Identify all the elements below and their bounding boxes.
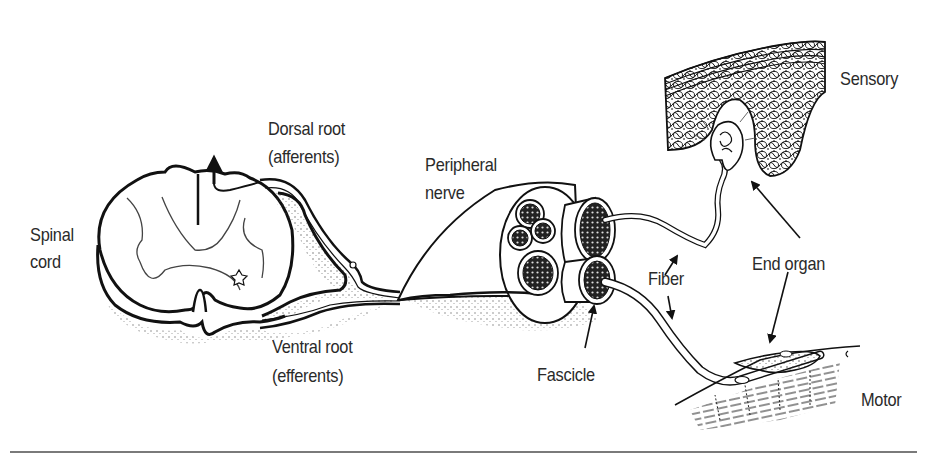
end-organ-arrow-sensory-icon xyxy=(752,182,800,238)
sensory-skin xyxy=(665,41,825,176)
label-spinal-cord-line2: cord xyxy=(30,250,61,274)
label-peripheral-nerve-line2: nerve xyxy=(425,181,465,205)
label-ventral-root-line2: (efferents) xyxy=(272,364,343,388)
label-spinal-cord-line1: Spinal xyxy=(30,223,74,247)
label-fascicle: Fascicle xyxy=(537,363,595,387)
nerve-diagram xyxy=(0,0,939,457)
label-dorsal-root-line2: (afferents) xyxy=(268,145,339,169)
fiber-arrow-motor-icon xyxy=(668,296,672,318)
label-end-organ: End organ xyxy=(752,252,825,276)
bottom-divider xyxy=(10,451,917,453)
label-dorsal-root-line1: Dorsal root xyxy=(268,117,345,141)
end-organ-arrow-motor-icon xyxy=(770,272,788,342)
label-ventral-root-line1: Ventral root xyxy=(272,335,352,359)
spinal-cord xyxy=(98,158,390,344)
label-peripheral-nerve-line1: Peripheral xyxy=(425,153,497,177)
label-motor: Motor xyxy=(861,388,901,412)
sensory-fiber xyxy=(605,160,725,245)
label-sensory: Sensory xyxy=(840,67,898,91)
label-fiber: Fiber xyxy=(648,267,684,291)
muscle-tissue xyxy=(675,346,860,430)
